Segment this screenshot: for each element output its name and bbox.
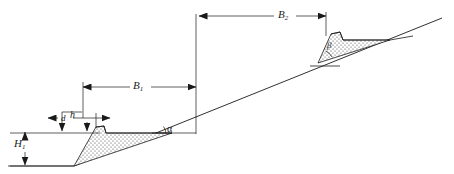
label-d: d bbox=[61, 114, 66, 123]
label-beta: β bbox=[327, 41, 331, 50]
label-h1: H1 bbox=[14, 138, 25, 149]
b2-dimension-line bbox=[199, 12, 326, 36]
d-dimension-line bbox=[48, 113, 110, 128]
label-h: h bbox=[70, 110, 75, 120]
label-alpha: α bbox=[167, 124, 172, 134]
b1-dimension-line bbox=[83, 14, 196, 134]
upper-bench-outline bbox=[331, 32, 413, 40]
lower-bench-fill bbox=[74, 126, 172, 166]
label-b1: B1 bbox=[133, 80, 143, 91]
slope-diagram-svg bbox=[0, 0, 454, 174]
figure-canvas: B1 B2 H1 h d α β bbox=[0, 0, 454, 174]
label-b2: B2 bbox=[278, 9, 288, 20]
lower-bench-outline bbox=[96, 126, 172, 133]
